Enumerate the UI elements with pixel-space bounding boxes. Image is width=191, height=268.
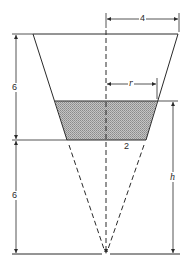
- label-cone-extension-height: 6: [11, 191, 18, 200]
- label-top-radius: 4: [139, 14, 146, 23]
- tank-diagram: [0, 0, 191, 268]
- label-liquid-radius: r: [128, 78, 134, 88]
- label-liquid-depth: h: [169, 172, 176, 182]
- label-frustum-height: 6: [11, 83, 18, 92]
- label-bottom-radius: 2: [123, 142, 130, 151]
